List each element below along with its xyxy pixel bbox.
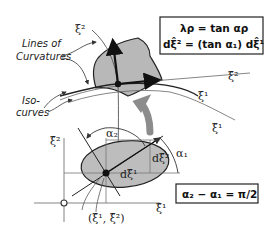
xi-hat1-curve (70, 90, 235, 120)
label-curves: curves (16, 107, 49, 118)
label-xi1-right: ξ¹ (198, 90, 208, 103)
surface-point (115, 81, 121, 87)
curved-surface-patch (94, 38, 162, 96)
iso-curves-pointer-1 (44, 92, 66, 108)
formula-alpha-difference: α₂ − α₁ = π/2 (182, 188, 257, 200)
label-iso: Iso- (22, 95, 40, 106)
label-point-coords: (ξ̂¹, ξ̂²) (88, 212, 125, 225)
label-alpha1: α₁ (176, 147, 188, 160)
label-xi-hat2-axis: ξ̂² (50, 135, 60, 148)
label-xi2-top: ξ² (75, 23, 85, 36)
label-lines-of: Lines of (22, 38, 62, 49)
origin-point (61, 200, 67, 206)
mapping-arrow (132, 94, 156, 132)
label-d-xi-hat1: dξ̂¹ (120, 168, 138, 181)
parameter-point (103, 170, 110, 177)
formula-lambda: λρ = tan αρ (180, 22, 249, 34)
formula-box-bottom: α₂ − α₁ = π/2 (176, 184, 258, 203)
label-d-xi-hat2: dξ̂² (152, 152, 170, 165)
formula-box-top: λρ = tan αρ dξ̂² = (tan α₁) dξ̂¹ (160, 17, 264, 54)
label-xi-hat1-right: ξ̂¹ (212, 122, 222, 135)
iso-curves-pointer-2 (48, 100, 72, 112)
label-xi-hat1-axis: ξ̂¹ (156, 202, 166, 215)
formula-d-xi: dξ̂² = (tan α₁) dξ̂¹ (163, 37, 264, 50)
diagram-canvas: Lines of Curvatures Iso- curves ξ² ξ̂² ξ… (0, 0, 275, 241)
label-xi-hat2-right: ξ̂² (228, 70, 238, 83)
label-curvatures: Curvatures (16, 51, 71, 62)
label-alpha2: α₂ (106, 127, 118, 140)
